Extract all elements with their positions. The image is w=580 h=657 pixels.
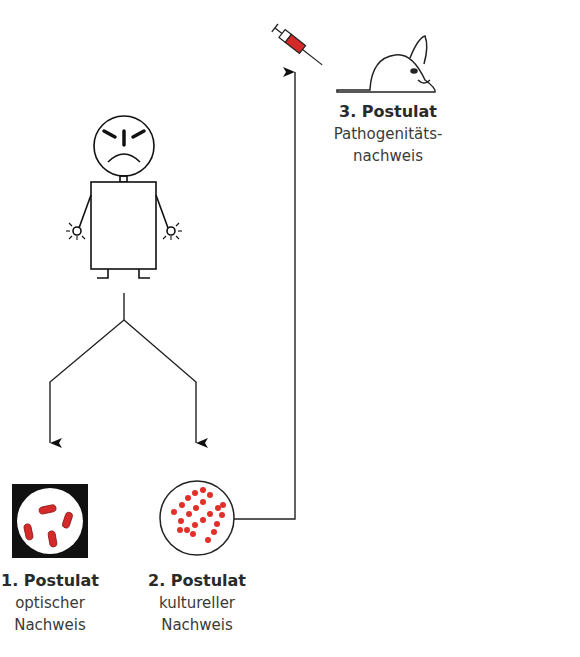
sick-person-icon bbox=[66, 116, 182, 278]
postulate-2-label: 2. Postulat kultureller Nachweis bbox=[145, 570, 249, 636]
syringe-icon bbox=[272, 24, 325, 69]
culture-dish-icon bbox=[160, 481, 234, 555]
arrow-to-injection bbox=[234, 72, 295, 519]
postulate-2-line1: kultureller bbox=[145, 592, 249, 614]
postulate-3-title: 3. Postulat bbox=[328, 101, 448, 123]
postulate-3-label: 3. Postulat Pathogenitäts- nachweis bbox=[328, 101, 448, 167]
postulate-2-title: 2. Postulat bbox=[145, 570, 249, 592]
postulate-3-line1: Pathogenitäts- bbox=[328, 123, 448, 145]
postulate-2-line2: Nachweis bbox=[145, 614, 249, 636]
postulate-3-line2: nachweis bbox=[328, 145, 448, 167]
postulate-1-line1: optischer bbox=[0, 592, 100, 614]
healthy-mouse-icon bbox=[337, 36, 435, 92]
branch-arrows-person bbox=[50, 293, 196, 443]
koch-postulates-diagram bbox=[0, 0, 580, 657]
postulate-1-title: 1. Postulat bbox=[0, 570, 100, 592]
bacteria-microscope-icon bbox=[12, 484, 88, 558]
postulate-1-line2: Nachweis bbox=[0, 614, 100, 636]
postulate-1-label: 1. Postulat optischer Nachweis bbox=[0, 570, 100, 636]
